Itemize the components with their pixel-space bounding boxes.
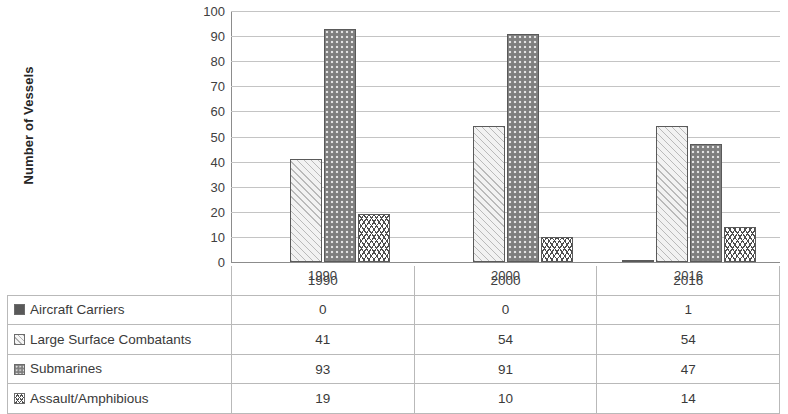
x-axis-label-2016: 2016 xyxy=(597,268,780,283)
legend-swatch-icon xyxy=(14,393,25,404)
y-axis-tick-label: 100 xyxy=(203,4,225,19)
bar-aircraft-carriers-2016 xyxy=(622,260,654,263)
table-cell-2016: 1 xyxy=(597,295,780,325)
y-axis-tick-label: 40 xyxy=(211,154,225,169)
legend-row-aircraft-carriers: Aircraft Carriers xyxy=(8,295,232,325)
legend-label: Submarines xyxy=(30,362,102,376)
bar-submarines-2000 xyxy=(507,34,539,262)
plot-area: 1009080706050403020100 xyxy=(231,11,780,263)
legend-label: Aircraft Carriers xyxy=(30,303,125,317)
x-axis-label-1990: 1990 xyxy=(231,268,414,283)
table-cell-2000: 54 xyxy=(414,325,597,355)
y-axis-tick-label: 60 xyxy=(211,104,225,119)
gridline xyxy=(231,137,780,138)
bar-large-surface-combatants-2016 xyxy=(656,126,688,262)
gridline xyxy=(231,86,780,87)
y-axis-tick-label: 80 xyxy=(211,54,225,69)
legend-row-submarines: Submarines xyxy=(8,354,232,384)
table-corner-cell xyxy=(8,266,232,295)
table-cell-2016: 47 xyxy=(597,354,780,384)
legend-label: Assault/Amphibious xyxy=(30,392,149,406)
legend-row-large-surface-combatants: Large Surface Combatants xyxy=(8,325,232,355)
gridline xyxy=(231,61,780,62)
legend-label: Large Surface Combatants xyxy=(30,333,191,347)
bar-assault-amphibious-2016 xyxy=(724,227,756,262)
table-cell-1990: 19 xyxy=(232,384,415,414)
table-row: Submarines939147 xyxy=(8,354,780,384)
bar-large-surface-combatants-1990 xyxy=(290,159,322,262)
table-cell-2000: 91 xyxy=(414,354,597,384)
data-table: 199020002016Aircraft Carriers001Large Su… xyxy=(7,266,780,414)
bar-assault-amphibious-1990 xyxy=(358,214,390,262)
y-axis-title: Number of Vessels xyxy=(21,46,36,206)
table-row: Large Surface Combatants415454 xyxy=(8,325,780,355)
table-cell-2000: 0 xyxy=(414,295,597,325)
table-cell-1990: 93 xyxy=(232,354,415,384)
bar-large-surface-combatants-2000 xyxy=(473,126,505,262)
y-axis-tick-label: 20 xyxy=(211,204,225,219)
y-axis-tick-label: 10 xyxy=(211,229,225,244)
table-cell-1990: 0 xyxy=(232,295,415,325)
x-axis-line xyxy=(231,262,780,263)
y-axis-tick-label: 90 xyxy=(211,29,225,44)
y-axis-tick-label: 70 xyxy=(211,79,225,94)
gridline xyxy=(231,36,780,37)
y-axis-tick-label: 30 xyxy=(211,179,225,194)
bar-submarines-1990 xyxy=(324,29,356,262)
gridline xyxy=(231,111,780,112)
table-cell-1990: 41 xyxy=(232,325,415,355)
table-row: Aircraft Carriers001 xyxy=(8,295,780,325)
table-cell-2000: 10 xyxy=(414,384,597,414)
y-axis-tick-label: 50 xyxy=(211,129,225,144)
bar-assault-amphibious-2000 xyxy=(541,237,573,262)
bar-submarines-2016 xyxy=(690,144,722,262)
legend-row-assault-amphibious: Assault/Amphibious xyxy=(8,384,232,414)
table-row: Assault/Amphibious191014 xyxy=(8,384,780,414)
x-axis-label-2000: 2000 xyxy=(414,268,597,283)
gridline xyxy=(231,11,780,12)
table-cell-2016: 14 xyxy=(597,384,780,414)
legend-swatch-icon xyxy=(14,334,25,345)
table-cell-2016: 54 xyxy=(597,325,780,355)
legend-swatch-icon xyxy=(14,304,25,315)
legend-swatch-icon xyxy=(14,364,25,375)
